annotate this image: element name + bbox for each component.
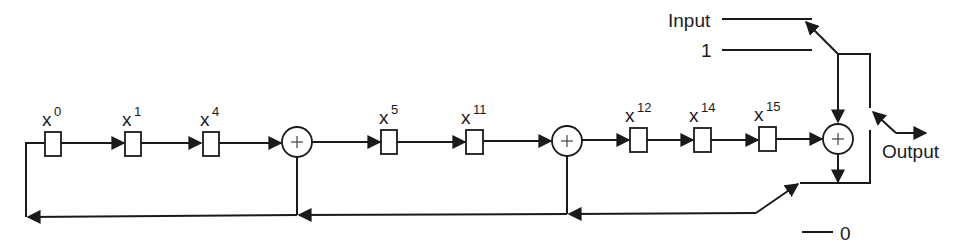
- svg-text:0: 0: [54, 104, 61, 119]
- feedback-bus-bottom-right: [569, 213, 756, 214]
- register-x14: x 14: [689, 100, 715, 152]
- register-x4: x 4: [200, 104, 219, 156]
- feedback-bus-bottom-left: [28, 215, 297, 217]
- svg-text:x: x: [461, 107, 471, 128]
- svg-text:x: x: [42, 109, 52, 130]
- svg-text:x: x: [754, 104, 764, 125]
- feedback-bus-bottom-middle: [299, 214, 567, 215]
- svg-text:x: x: [122, 109, 132, 130]
- svg-text:x: x: [625, 105, 635, 126]
- register-x11: x 11: [461, 102, 487, 154]
- svg-text:15: 15: [766, 99, 780, 114]
- input-to-output-switch: [838, 54, 870, 108]
- register-x0: x 0: [42, 104, 61, 156]
- register-x15: x 15: [754, 99, 780, 151]
- svg-text:x: x: [689, 105, 699, 126]
- adder-3: [823, 124, 853, 154]
- adder-2: [552, 126, 582, 156]
- svg-text:x: x: [379, 107, 389, 128]
- svg-text:4: 4: [212, 104, 219, 119]
- output-switch-arm: [873, 112, 896, 133]
- svg-text:14: 14: [701, 100, 715, 115]
- register-x5: x 5: [379, 102, 398, 154]
- one-label: 1: [701, 40, 712, 61]
- input-label: Input: [668, 10, 711, 31]
- svg-text:12: 12: [637, 100, 651, 115]
- svg-text:11: 11: [473, 102, 487, 117]
- register-x12: x 12: [625, 100, 651, 152]
- left-loop-wire: [26, 143, 45, 217]
- svg-text:5: 5: [391, 102, 398, 117]
- svg-text:1: 1: [134, 104, 141, 119]
- zero-label: 0: [840, 223, 851, 244]
- svg-text:x: x: [200, 109, 210, 130]
- feedback-switch-arm: [756, 184, 798, 213]
- register-x1: x 1: [122, 104, 141, 156]
- adder-1: [282, 127, 312, 157]
- lfsr-diagram: 0 Input 1 Output x 0 x 1 x 4 x 5 x 11 x …: [0, 0, 969, 250]
- output-label: Output: [882, 141, 940, 162]
